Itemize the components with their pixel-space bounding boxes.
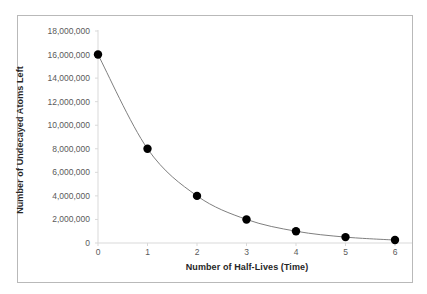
data-point-marker [292,227,300,235]
data-point-marker [341,233,349,241]
data-point-marker [94,50,102,58]
data-point-marker [143,145,151,153]
data-point-markers [94,50,399,244]
data-point-marker [242,215,250,223]
data-point-marker [193,192,201,200]
plot-area [0,0,427,294]
data-series-line [98,55,395,241]
axis-lines [98,30,412,243]
chart-figure: 18,000,000 16,000,000 14,000,000 12,000,… [0,0,427,294]
axis-ticks [95,31,395,246]
data-point-marker [391,236,399,244]
